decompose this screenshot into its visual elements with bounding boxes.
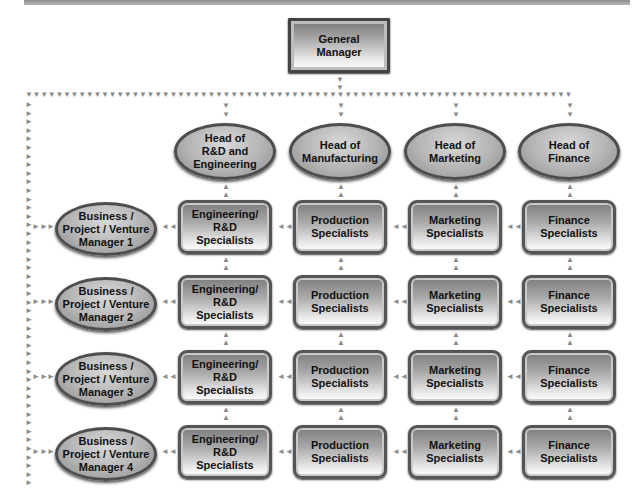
connector-arrow-right: ►	[25, 101, 33, 109]
specialist-box: ProductionSpecialists	[293, 425, 387, 479]
head-ellipse: Head ofMarketing	[404, 123, 506, 180]
specialist-box: MarketingSpecialists	[408, 200, 502, 254]
connector-arrow-right: ►	[25, 333, 33, 341]
connector-arrow-up: ▲	[566, 264, 574, 272]
head-ellipse-line: Manufacturing	[302, 152, 378, 165]
connector-arrow-right: ►	[25, 230, 33, 238]
manager-ellipse-line: Manager 1	[63, 236, 150, 249]
connector-arrow-right: ►►	[32, 298, 48, 306]
specialist-box-line: Engineering/	[192, 208, 259, 221]
specialist-box-line: Engineering/	[192, 283, 259, 296]
connector-arrow-down: ▼	[452, 102, 460, 110]
specialist-box-line: Specialists	[311, 227, 369, 240]
connector-arrow-left: ◄◄	[392, 448, 408, 456]
head-ellipse-line: Finance	[548, 152, 590, 165]
connector-arrow-up: ▲	[566, 339, 574, 347]
connector-arrow-right: ►	[25, 118, 33, 126]
specialist-box: MarketingSpecialists	[408, 275, 502, 329]
connector-arrow-up: ▲	[222, 264, 230, 272]
specialist-box-line: Specialists	[192, 459, 259, 472]
connector-arrow-down: ▼	[566, 102, 574, 110]
head-ellipse: Head ofManufacturing	[289, 123, 391, 180]
specialist-box-line: Production	[311, 364, 369, 377]
manager-ellipse-line: Project / Venture	[63, 223, 150, 236]
manager-ellipse: Business /Project / VentureManager 1	[55, 202, 157, 256]
connector-arrow-left: ◄◄	[506, 448, 522, 456]
specialist-box-line: Specialists	[540, 302, 597, 315]
manager-ellipse-line: Manager 3	[63, 386, 150, 399]
specialist-box-line: Specialists	[311, 452, 369, 465]
head-ellipse-line: Head of	[193, 132, 257, 145]
specialist-box-line: Specialists	[311, 302, 369, 315]
connector-arrow-down: ▼	[222, 111, 230, 119]
specialist-box-line: Finance	[540, 289, 597, 302]
manager-ellipse: Business /Project / VentureManager 2	[55, 277, 157, 331]
manager-ellipse-line: Project / Venture	[63, 373, 150, 386]
specialist-box-line: Finance	[540, 364, 597, 377]
manager-ellipse-line: Business /	[63, 285, 150, 298]
specialist-box-line: Marketing	[426, 439, 483, 452]
specialist-box-line: R&D	[192, 371, 259, 384]
connector-arrow-down: ▼	[452, 111, 460, 119]
specialist-box-line: Production	[311, 289, 369, 302]
head-ellipse-line: Head of	[302, 139, 378, 152]
connector-arrow-right: ►	[47, 223, 55, 231]
specialist-box-line: R&D	[192, 446, 259, 459]
connector-arrow-left: ◄◄	[506, 298, 522, 306]
connector-arrow-right: ►	[47, 373, 55, 381]
connector-arrow-right: ►	[25, 161, 33, 169]
specialist-box-line: Specialists	[426, 227, 483, 240]
connector-arrow-left: ◄◄	[277, 223, 293, 231]
connector-arrow-down: ▼	[566, 111, 574, 119]
specialist-box: Engineering/R&DSpecialists	[178, 425, 272, 479]
head-ellipse-line: R&D and	[193, 145, 257, 158]
specialist-box: MarketingSpecialists	[408, 350, 502, 404]
manager-ellipse-line: Manager 4	[63, 461, 150, 474]
head-ellipse-line: Marketing	[429, 152, 481, 165]
specialist-box: MarketingSpecialists	[408, 425, 502, 479]
connector-arrow-down: ▼	[337, 111, 345, 119]
specialist-box-line: Specialists	[426, 452, 483, 465]
connector-arrow-up: ▲	[222, 339, 230, 347]
specialist-box-line: Specialists	[192, 234, 259, 247]
specialist-box-line: Specialists	[426, 377, 483, 390]
specialist-box-line: Production	[311, 214, 369, 227]
top-divider-bar	[24, 0, 630, 5]
connector-arrow-right: ►	[47, 298, 55, 306]
specialist-box-line: Marketing	[426, 289, 483, 302]
connector-arrow-left: ◄◄	[506, 223, 522, 231]
manager-ellipse-line: Project / Venture	[63, 448, 150, 461]
specialist-box-line: Production	[311, 439, 369, 452]
specialist-box: ProductionSpecialists	[293, 275, 387, 329]
specialist-box-line: Finance	[540, 214, 597, 227]
connector-arrow-down: ▼	[336, 84, 344, 92]
connector-arrow-up: ▲	[337, 414, 345, 422]
connector-arrow-right: ►	[47, 448, 55, 456]
connector-arrow-right: ►►	[32, 373, 48, 381]
general-manager-label: General Manager	[309, 33, 369, 59]
connector-arrow-right: ►	[25, 479, 33, 487]
specialist-box-line: Engineering/	[192, 358, 259, 371]
connector-arrow-left: ◄◄	[277, 448, 293, 456]
connector-arrow-right: ►	[25, 316, 33, 324]
specialist-box: FinanceSpecialists	[522, 200, 616, 254]
connector-arrow-left: ◄◄	[161, 373, 177, 381]
connector-arrow-right: ►►	[32, 223, 48, 231]
head-ellipse: Head ofR&D andEngineering	[174, 123, 276, 180]
manager-ellipse-line: Project / Venture	[63, 298, 150, 311]
manager-ellipse-line: Business /	[63, 360, 150, 373]
connector-arrow-right: ►	[25, 273, 33, 281]
manager-ellipse-line: Manager 2	[63, 311, 150, 324]
connector-arrow-right: ►	[25, 247, 33, 255]
connector-arrow-up: ▲	[566, 414, 574, 422]
specialist-box-line: R&D	[192, 221, 259, 234]
connector-arrow-left: ◄◄	[161, 448, 177, 456]
specialist-box-line: Specialists	[311, 377, 369, 390]
connector-arrow-left: ◄◄	[506, 373, 522, 381]
manager-ellipse: Business /Project / VentureManager 4	[55, 427, 157, 481]
connector-arrow-down: ▼	[337, 102, 345, 110]
connector-arrow-left: ◄◄	[392, 223, 408, 231]
connector-arrow-up: ▲	[452, 414, 460, 422]
connector-arrow-left: ◄◄	[392, 373, 408, 381]
connector-arrow-down: ▼	[222, 102, 230, 110]
